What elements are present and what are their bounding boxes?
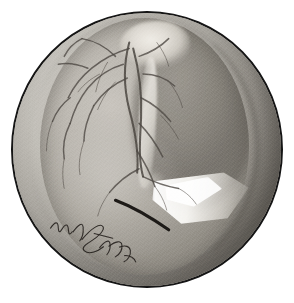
illustration-plate: v. Hasselt xyxy=(0,0,294,303)
otoscopic-field-circle: v. Hasselt xyxy=(11,11,283,288)
signature-stroke-0 xyxy=(50,221,73,234)
signature-stroke-4 xyxy=(98,239,111,255)
